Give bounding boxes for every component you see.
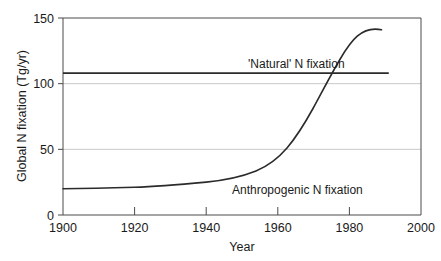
- x-tick-label-2000: 2000: [407, 221, 435, 235]
- y-axis-title: Global N fixation (Tg/yr): [15, 50, 29, 182]
- x-tick-labels: 1900 1920 1940 1960 1980 2000: [49, 221, 435, 235]
- y-tickmarks: [58, 18, 63, 215]
- x-tick-label-1900: 1900: [49, 221, 77, 235]
- x-tick-label-1960: 1960: [264, 221, 292, 235]
- y-tick-labels: 150 100 50 0: [33, 12, 54, 223]
- x-tick-label-1920: 1920: [121, 221, 149, 235]
- y-tick-label-50: 50: [40, 143, 54, 157]
- y-tick-label-150: 150: [33, 12, 54, 26]
- annotation-natural-n-fixation: 'Natural' N fixation: [248, 57, 345, 71]
- x-tick-label-1980: 1980: [335, 221, 363, 235]
- annotation-anthropogenic-n-fixation: Anthropogenic N fixation: [232, 183, 363, 197]
- y-tick-label-100: 100: [33, 77, 54, 91]
- chart-figure: 150 100 50 0 1900 1920 1940 1960 1980 20…: [0, 0, 441, 261]
- nitrogen-fixation-line-chart: 150 100 50 0 1900 1920 1940 1960 1980 20…: [0, 0, 441, 261]
- x-axis-title: Year: [229, 240, 254, 254]
- x-tick-label-1940: 1940: [192, 221, 220, 235]
